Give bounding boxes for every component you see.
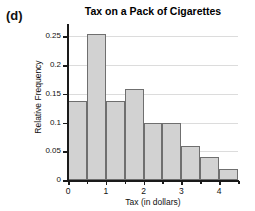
x-axis-minor-tick	[238, 181, 240, 184]
y-axis-tick-label: 0.05	[45, 146, 61, 155]
x-axis-tick	[68, 181, 70, 185]
histogram-bar	[125, 89, 144, 180]
y-axis-tick-label: 0.2	[50, 60, 61, 69]
x-axis-tick	[219, 181, 221, 185]
x-axis-tick-label: 1	[99, 186, 113, 196]
histogram-bar	[219, 169, 238, 180]
x-axis-minor-tick	[87, 181, 89, 184]
histogram-bar	[181, 146, 200, 180]
y-axis-tick	[63, 65, 68, 67]
y-axis-tick	[63, 151, 68, 153]
y-axis-tick-label: 0.15	[45, 89, 61, 98]
histogram-bar	[144, 123, 163, 180]
histogram-bar	[106, 101, 125, 180]
y-axis-tick	[63, 36, 68, 38]
y-axis-tick	[63, 94, 68, 96]
x-axis-tick-label: 2	[137, 186, 151, 196]
y-axis-title: Relative Frequency	[33, 42, 43, 152]
histogram-bar	[200, 157, 219, 180]
y-axis-tick	[63, 123, 68, 125]
y-axis-tick-label: 0	[57, 175, 61, 184]
x-axis-tick-label: 4	[212, 186, 226, 196]
x-axis-tick	[181, 181, 183, 185]
chart-title: Tax on a Pack of Cigarettes	[68, 5, 238, 17]
x-axis-minor-tick	[162, 181, 164, 184]
x-axis-tick-label: 0	[61, 186, 75, 196]
x-axis-tick	[106, 181, 108, 185]
y-axis-tick-label: 0.1	[50, 118, 61, 127]
histogram-bar	[87, 34, 106, 180]
histogram-bar	[162, 123, 181, 180]
x-axis-tick	[144, 181, 146, 185]
y-axis-tick-label: 0.25	[45, 31, 61, 40]
plot-area	[68, 25, 238, 180]
x-axis-tick-label: 3	[174, 186, 188, 196]
x-axis-line	[67, 180, 239, 182]
histogram-chart: Tax on a Pack of Cigarettes Relative Fre…	[0, 0, 255, 211]
y-axis-line	[67, 24, 69, 181]
x-axis-minor-tick	[125, 181, 127, 184]
histogram-bar	[68, 101, 87, 180]
x-axis-minor-tick	[200, 181, 202, 184]
x-axis-title: Tax (in dollars)	[68, 197, 238, 207]
